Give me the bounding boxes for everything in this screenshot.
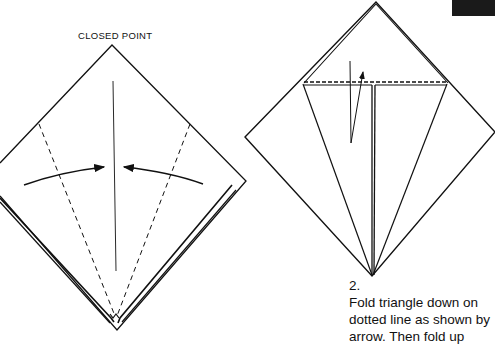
center-line-b — [374, 85, 375, 275]
step-caption: 2. Fold triangle down on dotted line as … — [349, 277, 490, 345]
step-number: 2. — [349, 277, 490, 294]
instruction-line: dotted line as shown by — [349, 311, 490, 328]
instruction-line: arrow. Then fold up — [349, 328, 490, 345]
closed-point-label: CLOSED POINT — [78, 30, 152, 41]
right-diamond-outline — [245, 2, 495, 276]
left-diamond-layer-right-2 — [122, 190, 236, 322]
instruction-line: Fold triangle down on — [349, 294, 490, 311]
right-diamond-inner-edge — [304, 4, 448, 83]
left-diamond-outline — [0, 45, 246, 330]
left-diamond-layer-right — [118, 185, 232, 323]
left-diamond-layer — [0, 198, 114, 322]
kite-left-edge — [303, 84, 372, 275]
kite-right-edge — [373, 84, 447, 275]
center-crease — [113, 81, 116, 271]
fold-down-arrow — [350, 61, 363, 143]
left-diamond — [0, 45, 246, 330]
right-diamond — [245, 2, 495, 276]
left-fold-arrow — [24, 167, 104, 185]
right-fold-arrow — [124, 167, 203, 184]
